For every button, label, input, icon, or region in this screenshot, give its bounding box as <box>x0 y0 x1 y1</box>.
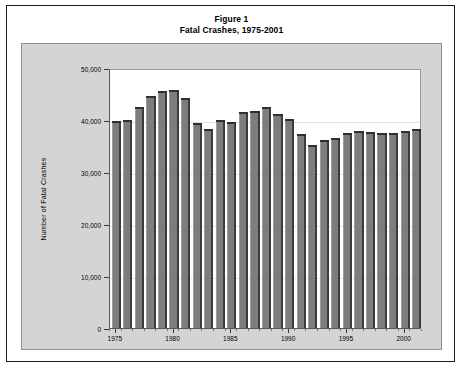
bar-top-face <box>366 132 375 134</box>
bar-highlight <box>239 114 240 328</box>
figure-page: Figure 1 Fatal Crashes, 1975-2001 Number… <box>0 0 463 381</box>
bar <box>216 122 223 328</box>
chart-panel: Number of Fatal Crashes 010,00020,00030,… <box>21 43 442 350</box>
bar <box>227 124 234 328</box>
y-tick: 30,000 <box>81 168 109 178</box>
y-tick-label: 30,000 <box>81 170 104 177</box>
bar-side-face <box>338 138 340 329</box>
y-tick: 40,000 <box>81 116 109 126</box>
x-minor-tick <box>155 329 156 331</box>
bar-highlight <box>343 135 344 328</box>
bar-side-face <box>396 133 398 328</box>
x-minor-tick <box>363 329 364 331</box>
x-minor-tick <box>121 329 122 331</box>
bar-side-face <box>408 131 410 328</box>
bar-highlight <box>366 134 367 328</box>
bar <box>401 133 408 328</box>
bar-highlight <box>123 122 124 328</box>
x-minor-tick <box>398 329 399 331</box>
bar-highlight <box>216 122 217 328</box>
bar-side-face <box>385 133 387 328</box>
y-tick-label: 10,000 <box>81 274 104 281</box>
bar-top-face <box>146 96 155 98</box>
bar-top-face <box>193 123 202 125</box>
bar-highlight <box>273 116 274 328</box>
x-minor-tick <box>329 329 330 331</box>
y-tick-label: 0 <box>97 326 104 333</box>
x-tick-mark <box>230 329 231 333</box>
x-minor-tick <box>421 329 422 331</box>
bar-highlight <box>412 131 413 328</box>
bar-highlight <box>354 133 355 328</box>
bar <box>308 147 315 328</box>
figure-frame: Figure 1 Fatal Crashes, 1975-2001 Number… <box>6 5 455 362</box>
bar-highlight <box>389 135 390 328</box>
x-minor-tick <box>248 329 249 331</box>
bar <box>389 135 396 328</box>
bar-top-face <box>204 129 213 131</box>
bar-top-face <box>181 98 190 100</box>
x-tick-mark <box>346 329 347 333</box>
bar <box>204 131 211 328</box>
bar-top-face <box>308 145 317 147</box>
bar <box>331 140 338 329</box>
bar-side-face <box>200 123 202 328</box>
bar-top-face <box>216 120 225 122</box>
bar-side-face <box>211 129 213 328</box>
bar <box>297 136 304 328</box>
bar-side-face <box>315 145 317 328</box>
bar-highlight <box>112 123 113 328</box>
bar-highlight <box>227 124 228 328</box>
bar-top-face <box>285 119 294 121</box>
bar <box>273 116 280 328</box>
bar-top-face <box>320 140 329 142</box>
bar-highlight <box>297 136 298 328</box>
bar-highlight <box>204 131 205 328</box>
x-minor-tick <box>109 329 110 331</box>
bar-highlight <box>285 121 286 328</box>
y-tick-label: 50,000 <box>81 66 104 73</box>
x-minor-tick <box>352 329 353 331</box>
bar-top-face <box>250 111 259 113</box>
bar <box>343 135 350 328</box>
y-tick: 0 <box>97 324 109 334</box>
bar-top-face <box>227 122 236 124</box>
bar-side-face <box>281 114 283 328</box>
bar-side-face <box>292 119 294 328</box>
x-tick-label: 1980 <box>165 335 179 342</box>
x-minor-tick <box>178 329 179 331</box>
x-minor-tick <box>259 329 260 331</box>
bar <box>169 92 176 328</box>
bar-side-face <box>327 140 329 328</box>
y-tick-label: 20,000 <box>81 222 104 229</box>
x-minor-tick <box>294 329 295 331</box>
x-minor-tick <box>340 329 341 331</box>
bar-top-face <box>123 120 132 122</box>
bar-top-face <box>377 133 386 135</box>
bar <box>239 114 246 328</box>
bar-top-face <box>158 91 167 93</box>
bar-side-face <box>223 120 225 328</box>
bar-side-face <box>165 91 167 328</box>
bar-side-face <box>188 98 190 328</box>
x-minor-tick <box>386 329 387 331</box>
bar-side-face <box>177 90 179 328</box>
bar-top-face <box>112 121 121 123</box>
x-minor-tick <box>282 329 283 331</box>
bar-highlight <box>401 133 402 328</box>
x-tick-label: 1985 <box>223 335 237 342</box>
bar-top-face <box>354 131 363 133</box>
x-minor-tick <box>317 329 318 331</box>
x-minor-tick <box>144 329 145 331</box>
figure-title-line-2: Fatal Crashes, 1975-2001 <box>7 25 456 36</box>
bar <box>285 121 292 328</box>
bar-top-face <box>412 129 421 131</box>
y-tick: 20,000 <box>81 220 109 230</box>
x-minor-tick <box>305 329 306 331</box>
bar-side-face <box>362 131 364 328</box>
bar-side-face <box>304 134 306 328</box>
bar-side-face <box>258 111 260 328</box>
bar-side-face <box>154 96 156 328</box>
x-minor-tick <box>225 329 226 331</box>
x-minor-tick <box>236 329 237 331</box>
